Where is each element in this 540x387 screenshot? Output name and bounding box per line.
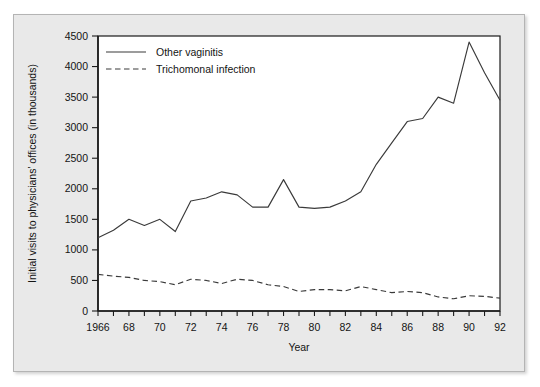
chart-svg: 0500100015002000250030003500400045001966…: [0, 0, 540, 387]
x-axis-tick-label: 1966: [86, 321, 110, 333]
x-axis-tick-label: 76: [247, 321, 259, 333]
legend-label-2: Trichomonal infection: [156, 63, 256, 75]
line-chart: 0500100015002000250030003500400045001966…: [0, 0, 540, 387]
legend-label-1: Other vaginitis: [156, 46, 223, 58]
x-axis-tick-label: 82: [340, 321, 352, 333]
x-axis-tick-label: 84: [370, 321, 382, 333]
x-axis-tick-label: 72: [185, 321, 197, 333]
y-axis-tick-label: 3500: [65, 91, 89, 103]
x-axis-tick-label: 92: [494, 321, 506, 333]
x-axis-tick-label: 78: [278, 321, 290, 333]
x-axis-tick-label: 74: [216, 321, 228, 333]
x-axis-tick-label: 68: [123, 321, 135, 333]
y-axis-tick-label: 500: [70, 274, 88, 286]
x-axis-tick-label: 86: [401, 321, 413, 333]
y-axis-tick-label: 1500: [65, 213, 89, 225]
y-axis-tick-label: 0: [82, 305, 88, 317]
y-axis-tick-label: 2000: [65, 182, 89, 194]
y-axis-title: Initial visits to physicians' offices (i…: [26, 64, 38, 283]
x-axis-tick-label: 70: [154, 321, 166, 333]
x-axis-tick-label: 88: [432, 321, 444, 333]
y-axis-tick-label: 3000: [65, 121, 89, 133]
plot-area: [98, 36, 500, 311]
y-axis-tick-label: 2500: [65, 152, 89, 164]
x-axis-tick-label: 80: [309, 321, 321, 333]
x-axis-title: Year: [288, 341, 310, 353]
y-axis-tick-label: 1000: [65, 243, 89, 255]
y-axis-tick-label: 4000: [65, 60, 89, 72]
x-axis-tick-label: 90: [463, 321, 475, 333]
y-axis-tick-label: 4500: [65, 30, 89, 42]
